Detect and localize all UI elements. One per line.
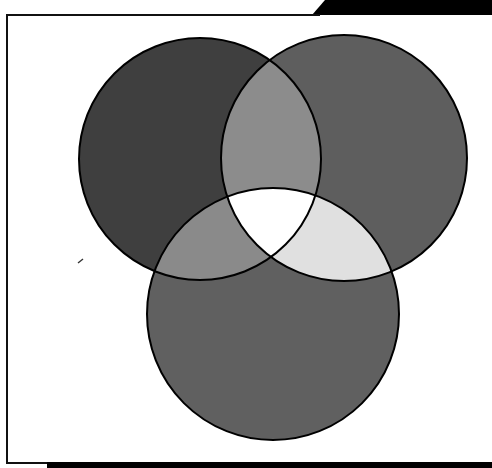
bottom-bar xyxy=(47,462,492,468)
venn-diagram-canvas xyxy=(0,0,492,468)
top-corner-wedge xyxy=(312,0,492,15)
